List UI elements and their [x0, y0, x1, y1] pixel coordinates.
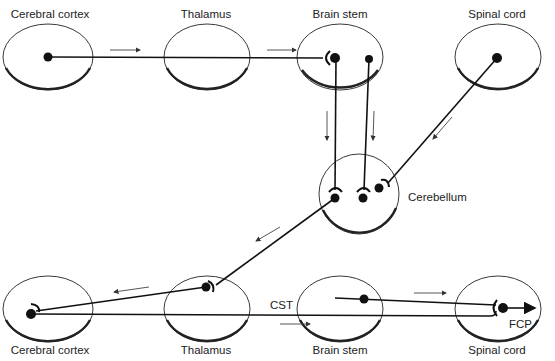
label-thalamus-bottom: Thalamus [181, 344, 232, 356]
label-thalamus-top: Thalamus [181, 8, 232, 20]
label-cerebellum: Cerebellum [408, 191, 467, 203]
fiber-cortex-to-brainstem [48, 57, 323, 58]
label-cst: CST [270, 299, 293, 311]
fiber-spinalcord-to-cerebellum [388, 58, 497, 183]
synapse-brainstem-top [326, 51, 330, 65]
synapse-cerebellum-2 [357, 188, 370, 192]
fiber-brainstem-to-cerebellum-2 [364, 59, 369, 190]
cell-body-cortex-bottom [26, 309, 36, 319]
label-cerebral-cortex-bottom: Cerebral cortex [11, 344, 90, 356]
direction-arrow-icon [373, 111, 374, 140]
direction-arrow-icon [256, 227, 280, 241]
fiber-cerebellum-to-thalamus [216, 198, 335, 285]
cell-body-cerebellum-2 [359, 194, 368, 203]
label-brain-stem-bottom: Brain stem [313, 344, 368, 356]
fiber-cst [32, 311, 496, 316]
cell-body-brainstem-top-1 [330, 53, 340, 63]
fiber-brainstem-to-cerebellum-1 [335, 58, 336, 190]
cell-body-brainstem-top-2 [365, 55, 373, 63]
synapse-spinalcord-bottom [494, 300, 498, 316]
ellipse-cerebellum [319, 154, 399, 234]
cell-body-spinalcord-top [492, 53, 502, 63]
cell-body-spinalcord-bottom [498, 303, 508, 313]
ellipse-brain-stem-bottom [297, 276, 383, 342]
label-spinal-cord-bottom: Spinal cord [468, 344, 526, 356]
cell-body-thalamus-bottom [202, 283, 211, 292]
cell-body-cerebellum-1 [331, 194, 340, 203]
cell-body-cerebellum-3 [375, 184, 384, 193]
label-cerebral-cortex-top: Cerebral cortex [11, 8, 90, 20]
label-spinal-cord-top: Spinal cord [468, 8, 526, 20]
fiber-brainstem-to-spinalcord [335, 298, 496, 305]
direction-arrow-icon [114, 287, 149, 292]
cell-body-cortex-top [44, 53, 53, 62]
ellipse-spinal-cord-bottom [455, 276, 541, 342]
cell-body-brainstem-bottom [360, 295, 369, 304]
label-fcp: FCP [509, 318, 532, 330]
label-brain-stem-top: Brain stem [313, 8, 368, 20]
